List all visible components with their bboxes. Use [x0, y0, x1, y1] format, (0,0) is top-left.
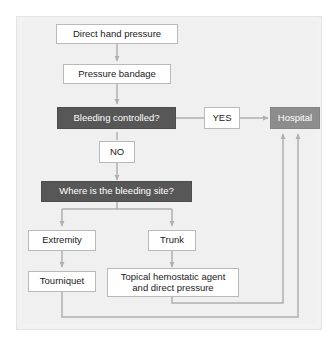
node-tourniquet-label: Tourniquet: [36, 276, 88, 287]
node-extremity[interactable]: Extremity: [28, 230, 96, 251]
node-topical-agent-label: Topical hemostatic agent and direct pres…: [117, 272, 230, 294]
node-direct-hand-pressure[interactable]: Direct hand pressure: [56, 24, 178, 44]
node-bleeding-site-label: Where is the bleeding site?: [55, 186, 178, 197]
node-bleeding-controlled-label: Bleeding controlled?: [69, 113, 163, 124]
node-bleeding-controlled[interactable]: Bleeding controlled?: [57, 107, 176, 129]
node-topical-agent[interactable]: Topical hemostatic agent and direct pres…: [107, 268, 239, 297]
node-direct-hand-pressure-label: Direct hand pressure: [69, 29, 165, 40]
node-pressure-bandage[interactable]: Pressure bandage: [63, 64, 171, 84]
node-yes-text: YES: [208, 113, 235, 124]
node-tourniquet[interactable]: Tourniquet: [28, 271, 96, 292]
node-bleeding-site[interactable]: Where is the bleeding site?: [41, 181, 192, 202]
node-pressure-bandage-label: Pressure bandage: [74, 69, 160, 80]
node-no-label[interactable]: NO: [99, 141, 135, 163]
flowchart-figure: Direct hand pressure Pressure bandage Bl…: [0, 0, 334, 355]
node-extremity-label: Extremity: [38, 235, 86, 246]
node-yes-label[interactable]: YES: [204, 107, 240, 129]
node-trunk-label: Trunk: [156, 235, 188, 246]
node-no-text: NO: [106, 147, 128, 158]
node-hospital-label: Hospital: [274, 113, 316, 124]
flowchart-connectors: [0, 0, 334, 355]
node-hospital[interactable]: Hospital: [270, 107, 320, 129]
node-trunk[interactable]: Trunk: [148, 230, 196, 251]
